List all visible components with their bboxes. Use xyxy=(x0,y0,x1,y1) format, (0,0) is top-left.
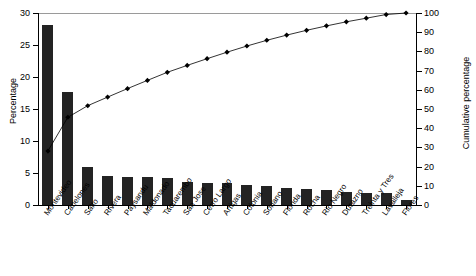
cumulative-marker xyxy=(244,43,249,48)
right-tick-label: 10 xyxy=(424,182,454,191)
cumulative-marker xyxy=(165,70,170,75)
right-tick-mark xyxy=(417,147,422,148)
left-tick-mark xyxy=(33,77,38,78)
y2-axis-title: Cumulative percentage xyxy=(461,48,471,158)
left-tick-label: 10 xyxy=(2,137,30,146)
cumulative-marker xyxy=(344,19,349,24)
cumulative-polyline xyxy=(48,13,406,151)
left-tick-label: 15 xyxy=(2,105,30,114)
right-tick-label: 100 xyxy=(424,9,454,18)
cumulative-marker xyxy=(264,38,269,43)
right-tick-mark xyxy=(417,128,422,129)
right-tick-label: 20 xyxy=(424,163,454,172)
left-tick-mark xyxy=(33,45,38,46)
right-tick-mark xyxy=(417,167,422,168)
right-tick-mark xyxy=(417,71,422,72)
left-tick-mark xyxy=(33,109,38,110)
left-axis-line xyxy=(38,13,39,205)
right-tick-mark xyxy=(417,109,422,110)
left-tick-label: 25 xyxy=(2,41,30,50)
bar xyxy=(42,25,53,205)
cumulative-marker xyxy=(224,50,229,55)
cumulative-marker xyxy=(125,86,130,91)
right-tick-mark xyxy=(417,90,422,91)
cumulative-marker xyxy=(304,28,309,33)
right-tick-label: 80 xyxy=(424,47,454,56)
right-tick-label: 40 xyxy=(424,124,454,133)
right-tick-mark xyxy=(417,205,422,206)
right-tick-label: 90 xyxy=(424,28,454,37)
right-tick-mark xyxy=(417,186,422,187)
cumulative-marker xyxy=(85,103,90,108)
cumulative-marker xyxy=(364,16,369,21)
cumulative-marker xyxy=(324,23,329,28)
left-tick-label: 30 xyxy=(2,9,30,18)
right-tick-label: 70 xyxy=(424,67,454,76)
right-tick-mark xyxy=(417,13,422,14)
right-tick-label: 0 xyxy=(424,201,454,210)
right-tick-mark xyxy=(417,51,422,52)
cumulative-marker xyxy=(105,94,110,99)
cumulative-marker xyxy=(145,78,150,83)
left-tick-mark xyxy=(33,205,38,206)
pareto-chart: Percentage Cumulative percentage 0510152… xyxy=(0,0,476,276)
left-tick-label: 20 xyxy=(2,73,30,82)
left-tick-mark xyxy=(33,141,38,142)
left-tick-label: 5 xyxy=(2,169,30,178)
right-tick-label: 30 xyxy=(424,143,454,152)
left-tick-mark xyxy=(33,173,38,174)
right-tick-label: 60 xyxy=(424,86,454,95)
chart-top-rule xyxy=(38,13,417,14)
left-tick-mark xyxy=(33,13,38,14)
left-tick-label: 0 xyxy=(2,201,30,210)
cumulative-marker xyxy=(185,63,190,68)
cumulative-markers xyxy=(45,10,408,153)
right-tick-mark xyxy=(417,32,422,33)
cumulative-marker xyxy=(284,32,289,37)
right-tick-label: 50 xyxy=(424,105,454,114)
cumulative-marker xyxy=(205,56,210,61)
